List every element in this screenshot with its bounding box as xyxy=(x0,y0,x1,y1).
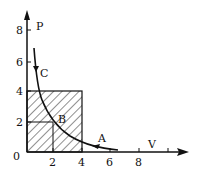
point-a-label: A xyxy=(97,132,107,145)
arrow-c-icon xyxy=(33,66,39,72)
x-tick-2: 2 xyxy=(49,156,56,169)
y-tick-8: 8 xyxy=(16,24,23,37)
y-axis-arrow-icon xyxy=(24,10,30,20)
y-tick-4: 4 xyxy=(16,85,23,98)
x-tick-8: 8 xyxy=(135,156,142,169)
y-tick-6: 6 xyxy=(16,56,23,69)
x-tick-6: 6 xyxy=(106,156,113,169)
origin-label: 0 xyxy=(13,150,20,163)
x-axis-label: V xyxy=(147,138,157,151)
pv-diagram: 8 6 4 2 0 2 4 6 8 P V C B A xyxy=(0,0,201,182)
x-tick-4: 4 xyxy=(78,156,85,169)
y-tick-2: 2 xyxy=(16,116,23,129)
point-c-label: C xyxy=(40,67,48,80)
point-b-label: B xyxy=(58,113,66,126)
y-axis-label: P xyxy=(36,20,44,33)
